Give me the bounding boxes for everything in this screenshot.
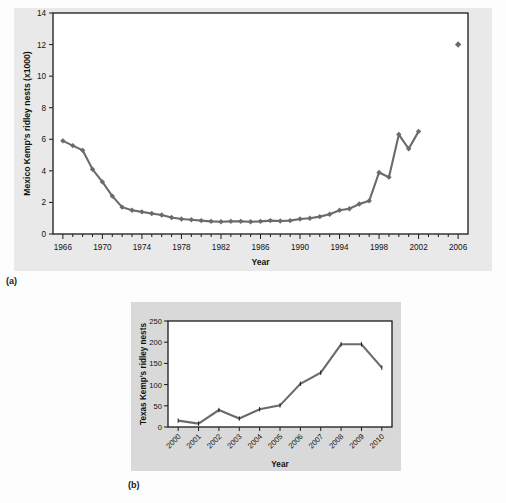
x-tick-label-a: 1966 <box>54 243 73 252</box>
y-axis-title-b: Texas Kemp's ridley nests <box>139 323 148 425</box>
y-tick-label-b: 0 <box>158 423 162 432</box>
x-axis-title-a: Year <box>251 257 270 267</box>
y-tick-label-a: 8 <box>41 104 46 113</box>
x-tick-label-a: 1978 <box>172 243 191 252</box>
x-tick-label-b: 2002 <box>205 432 223 450</box>
x-tick-label-b: 2004 <box>246 432 264 450</box>
y-tick-label-b: 150 <box>149 359 162 368</box>
y-tick-label-a: 12 <box>37 41 47 50</box>
panel-b-group: 0501001502002502000200120022003200420052… <box>139 317 392 469</box>
x-tick-label-a: 1994 <box>330 243 349 252</box>
y-tick-label-a: 14 <box>37 9 47 18</box>
x-tick-label-a: 2002 <box>409 243 428 252</box>
x-tick-label-a: 1986 <box>251 243 270 252</box>
y-axis-title-a: Mexico Kemp's ridley nests (x1000) <box>22 51 32 196</box>
y-tick-label-a: 6 <box>41 135 46 144</box>
panel-b-plot-area <box>168 321 392 427</box>
x-tick-label-b: 2008 <box>327 432 345 450</box>
panel-a-group: 0246810121419661970197419781982198619901… <box>22 9 468 267</box>
x-tick-label-b: 2000 <box>164 432 182 450</box>
figure-root: 0246810121419661970197419781982198619901… <box>0 0 506 503</box>
x-tick-label-a: 2006 <box>449 243 468 252</box>
chart-panel-a: 0246810121419661970197419781982198619901… <box>0 0 506 503</box>
x-tick-label-a: 1998 <box>370 243 389 252</box>
x-tick-label-a: 1974 <box>133 243 152 252</box>
x-tick-label-a: 1990 <box>291 243 310 252</box>
x-tick-label-b: 2003 <box>225 432 243 450</box>
y-tick-label-a: 2 <box>41 198 46 207</box>
y-tick-label-a: 10 <box>37 72 47 81</box>
panel-b-label: (b) <box>128 480 140 490</box>
x-tick-label-a: 1982 <box>212 243 231 252</box>
x-tick-label-b: 2006 <box>286 432 304 450</box>
x-axis-title-b: Year <box>271 460 289 469</box>
panel-a-label: (a) <box>6 276 17 286</box>
y-tick-label-b: 50 <box>154 402 162 411</box>
y-tick-label-b: 200 <box>149 338 162 347</box>
x-tick-label-b: 2007 <box>307 432 325 450</box>
y-tick-label-b: 100 <box>149 381 162 390</box>
y-tick-label-b: 250 <box>149 317 162 326</box>
x-tick-label-a: 1970 <box>93 243 112 252</box>
x-tick-label-b: 2005 <box>266 432 284 450</box>
y-tick-label-a: 4 <box>41 167 46 176</box>
x-tick-label-b: 2001 <box>185 432 203 450</box>
x-tick-label-b: 2009 <box>348 432 366 450</box>
x-tick-label-b: 2010 <box>368 432 386 450</box>
y-tick-label-a: 0 <box>41 230 46 239</box>
